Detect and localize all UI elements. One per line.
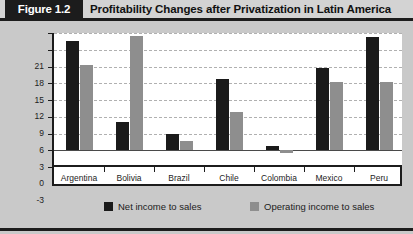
x-axis-tick-mark	[354, 167, 355, 172]
y-axis-tick-label: 3	[24, 163, 44, 171]
legend-item-operating_income[interactable]: Operating income to sales	[250, 196, 374, 210]
bar-operating-income-to-sales-peru	[380, 82, 393, 150]
y-axis-tick-label: 9	[24, 129, 44, 137]
y-axis-tick-label: 15	[24, 96, 44, 104]
x-axis-tick-mark	[254, 167, 255, 172]
bar-group	[54, 33, 402, 165]
legend-swatch-icon	[104, 202, 113, 211]
plot-area	[52, 33, 402, 167]
legend-item-net_income[interactable]: Net income to sales	[104, 196, 201, 210]
y-axis-tick-label: 18	[24, 79, 44, 87]
chart-legend: Net income to salesOperating income to s…	[0, 196, 413, 214]
y-axis-tick-mark	[48, 100, 52, 101]
bottom-rule	[0, 228, 413, 231]
legend-label: Net income to sales	[118, 201, 201, 212]
legend-swatch-icon	[250, 202, 259, 211]
y-axis-tick-mark	[48, 33, 52, 34]
y-axis-tick-label: 21	[24, 62, 44, 70]
y-axis-tick-mark	[48, 67, 52, 68]
x-axis-tick-mark	[204, 167, 205, 172]
x-axis-band: ArgentinaBoliviaBrazilChileColombiaMexic…	[52, 167, 402, 186]
y-axis-tick-mark	[48, 167, 52, 168]
figure-container: Figure 1.2 Profitability Changes after P…	[0, 0, 413, 234]
legend-label: Operating income to sales	[264, 201, 374, 212]
x-axis-tick-mark	[304, 167, 305, 172]
figure-number-box: Figure 1.2	[5, 0, 83, 18]
bar-net-income-to-sales-peru	[366, 37, 379, 150]
y-axis-tick-label: 6	[24, 146, 44, 154]
y-axis-tick-mark	[48, 83, 52, 84]
y-axis-tick-label: 0	[24, 179, 44, 187]
figure-header: Figure 1.2 Profitability Changes after P…	[0, 0, 413, 21]
figure-number: Figure 1.2	[5, 0, 83, 18]
y-axis-tick-mark	[48, 50, 52, 51]
y-axis-tick-mark	[48, 150, 52, 151]
figure-title: Profitability Changes after Privatizatio…	[90, 0, 391, 18]
y-axis-tick-mark	[48, 117, 52, 118]
y-axis-tick-mark	[48, 134, 52, 135]
y-axis-tick-labels: 211815129630-3	[24, 33, 48, 193]
x-axis-tick-mark	[104, 167, 105, 172]
x-axis-tick-mark	[154, 167, 155, 172]
x-axis-tick-label-peru: Peru	[349, 173, 409, 183]
y-axis-tick-label: 12	[24, 112, 44, 120]
